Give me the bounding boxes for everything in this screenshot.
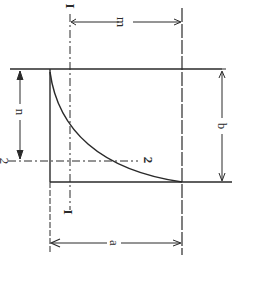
dim-n-arrow-top: [17, 71, 23, 80]
label-n: n: [13, 109, 28, 116]
label-axis1-bottom: I: [61, 209, 76, 214]
label-m: m: [114, 17, 129, 27]
label-b: b: [215, 123, 230, 130]
section-diagram: m n b a 2 2 I I: [0, 0, 254, 286]
dim-n-arrow-bottom: [17, 150, 23, 159]
label-a: a: [107, 240, 122, 246]
label-axis2-right: 2: [141, 157, 156, 164]
label-axis1-top: I: [63, 3, 78, 8]
label-axis2-left: 2: [0, 158, 12, 165]
